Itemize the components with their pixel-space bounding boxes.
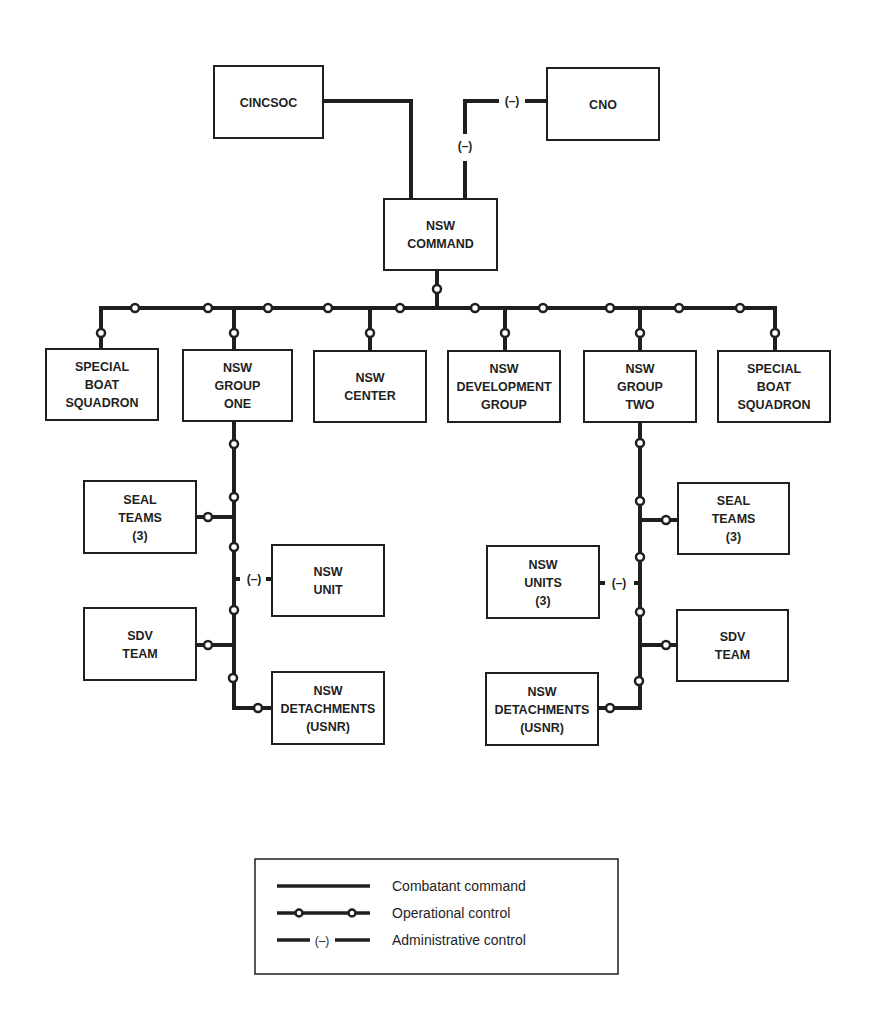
org-box-frame: [384, 199, 497, 270]
org-box-label-line: NSW: [313, 684, 342, 698]
legend-operational-control-label: Operational control: [392, 905, 510, 921]
op-dot: [230, 493, 238, 501]
org-box-label-line: GROUP: [617, 380, 663, 394]
org-box-sdv-team-2: SDVTEAM: [677, 610, 788, 681]
op-dot: [204, 513, 212, 521]
org-box-seal-teams-2: SEALTEAMS(3): [678, 483, 789, 554]
org-box-label-line: CNO: [589, 98, 617, 112]
org-box-nsw-det-1: NSWDETACHMENTS(USNR): [272, 672, 384, 744]
org-box-label-line: NSW: [527, 685, 556, 699]
combatant-command-line-cincsoc: [323, 101, 411, 199]
org-box-label-line: (3): [132, 529, 147, 543]
org-boxes: CINCSOCCNONSWCOMMANDSPECIALBOATSQUADRONN…: [46, 66, 830, 745]
op-dot: [606, 304, 614, 312]
op-dot: [662, 641, 670, 649]
legend-admin-marker: (–): [315, 934, 330, 948]
org-box-frame: [677, 610, 788, 681]
op-dot: [396, 304, 404, 312]
org-box-label-line: NSW: [426, 219, 455, 233]
org-box-label-line: TEAM: [715, 648, 750, 662]
op-dot: [366, 329, 374, 337]
admin-control-line-cno-b: [465, 101, 499, 134]
org-box-sbs-left: SPECIALBOATSQUADRON: [46, 349, 158, 420]
op-dot: [433, 285, 441, 293]
org-box-frame: [84, 608, 196, 680]
op-dot: [539, 304, 547, 312]
org-box-label-line: (3): [535, 594, 550, 608]
op-dot: [324, 304, 332, 312]
op-dot: [97, 329, 105, 337]
org-box-nsw-group-one: NSWGROUPONE: [183, 350, 292, 421]
op-dot: [131, 304, 139, 312]
org-box-label-line: SPECIAL: [747, 362, 802, 376]
org-box-cincsoc: CINCSOC: [214, 66, 323, 138]
op-dot: [230, 606, 238, 614]
org-box-label-line: TWO: [625, 398, 654, 412]
org-box-label-line: GROUP: [481, 398, 527, 412]
org-box-nsw-det-2: NSWDETACHMENTS(USNR): [486, 673, 598, 745]
legend: Combatant command Operational control (–…: [255, 859, 618, 974]
admin-marker-unit-1: (–): [247, 572, 262, 586]
admin-marker-units-2: (–): [612, 576, 627, 590]
org-box-label-line: CINCSOC: [240, 96, 298, 110]
op-dot: [501, 329, 509, 337]
op-dot: [636, 497, 644, 505]
org-box-label-line: SQUADRON: [738, 398, 811, 412]
org-box-seal-teams-1: SEALTEAMS(3): [84, 481, 196, 553]
org-box-label-line: DETACHMENTS: [495, 703, 590, 717]
org-box-label-line: (USNR): [520, 721, 564, 735]
org-box-label-line: NSW: [489, 362, 518, 376]
org-box-label-line: SPECIAL: [75, 360, 130, 374]
org-box-label-line: NSW: [223, 361, 252, 375]
admin-marker-cno-vertical: (–): [458, 139, 473, 153]
op-dot: [606, 704, 614, 712]
org-box-frame: [314, 351, 426, 422]
op-dot: [204, 641, 212, 649]
op-dot: [264, 304, 272, 312]
org-box-label-line: SDV: [127, 629, 153, 643]
op-dot: [471, 304, 479, 312]
org-box-label-line: SDV: [720, 630, 746, 644]
org-box-label-line: SEAL: [123, 493, 157, 507]
op-dot: [675, 304, 683, 312]
org-box-sbs-right: SPECIALBOATSQUADRON: [718, 351, 830, 422]
op-dot: [662, 516, 670, 524]
org-box-label-line: COMMAND: [407, 237, 474, 251]
op-dot: [736, 304, 744, 312]
op-dot: [230, 543, 238, 551]
org-box-label-line: UNITS: [524, 576, 562, 590]
org-box-label-line: NSW: [625, 362, 654, 376]
org-box-label-line: NSW: [528, 558, 557, 572]
op-dot: [636, 553, 644, 561]
op-dot: [229, 674, 237, 682]
op-dot: [230, 329, 238, 337]
org-box-label-line: NSW: [355, 371, 384, 385]
op-dot: [636, 329, 644, 337]
org-box-label-line: TEAMS: [712, 512, 756, 526]
org-box-label-line: TEAMS: [118, 511, 162, 525]
op-control-group-two-trunk: [598, 422, 640, 708]
org-box-label-line: NSW: [313, 565, 342, 579]
org-box-frame: [272, 545, 384, 616]
op-dot: [254, 704, 262, 712]
op-dot: [230, 440, 238, 448]
org-box-nsw-command: NSWCOMMAND: [384, 199, 497, 270]
org-box-label-line: BOAT: [757, 380, 792, 394]
org-box-label-line: ONE: [224, 397, 251, 411]
org-box-label-line: DEVELOPMENT: [456, 380, 552, 394]
org-box-nsw-dev-group: NSWDEVELOPMENTGROUP: [448, 351, 560, 422]
admin-marker-cno-horizontal: (–): [505, 94, 520, 108]
org-box-label-line: TEAM: [122, 647, 157, 661]
op-dot: [771, 329, 779, 337]
org-box-label-line: DETACHMENTS: [281, 702, 376, 716]
org-box-nsw-group-two: NSWGROUPTWO: [584, 351, 696, 422]
org-box-sdv-team-1: SDVTEAM: [84, 608, 196, 680]
org-box-nsw-unit-1: NSWUNIT: [272, 545, 384, 616]
org-chart-diagram: (–) (–) (–) (–): [0, 0, 874, 1024]
op-dot: [636, 439, 644, 447]
op-dot: [636, 608, 644, 616]
legend-administrative-control-label: Administrative control: [392, 932, 526, 948]
org-box-label-line: (USNR): [306, 720, 350, 734]
org-box-label-line: SEAL: [717, 494, 751, 508]
org-box-label-line: GROUP: [215, 379, 261, 393]
